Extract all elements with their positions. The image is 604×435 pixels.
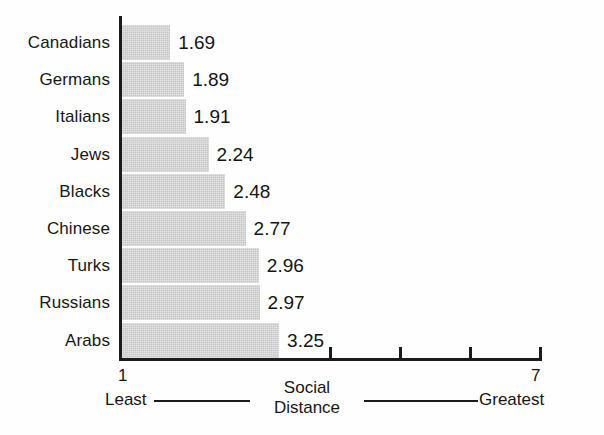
social-distance-bar-chart: Canadians1.69Germans1.89Italians1.91Jews… (0, 0, 604, 435)
bar-category-label: Germans (39, 62, 110, 97)
axis-title-line-1: Social (252, 378, 362, 398)
bar-row: Chinese2.77 (0, 211, 604, 246)
bar (122, 99, 186, 134)
bar-row: Jews2.24 (0, 137, 604, 172)
axis-label-greatest: Greatest (479, 390, 544, 410)
bar-category-label: Chinese (47, 211, 110, 246)
bar-row: Turks2.96 (0, 248, 604, 283)
bar-value-label: 2.77 (254, 211, 291, 246)
bar-value-label: 2.48 (233, 174, 270, 209)
bar (122, 137, 209, 172)
axis-max-value: 7 (531, 366, 540, 386)
bar (122, 211, 246, 246)
axis-caption-row: Least Social Distance Greatest (0, 388, 604, 432)
bar-value-label: 1.91 (194, 99, 231, 134)
bar-category-label: Russians (39, 285, 110, 320)
bar-category-label: Blacks (59, 174, 110, 209)
axis-title-social-distance: Social Distance (252, 378, 362, 418)
bar-category-label: Canadians (28, 25, 110, 60)
bar-value-label: 1.69 (178, 25, 215, 60)
bar (122, 25, 170, 60)
bar-category-label: Arabs (65, 323, 110, 358)
bar-row: Italians1.91 (0, 99, 604, 134)
bar-category-label: Italians (55, 99, 110, 134)
bar (122, 323, 279, 358)
axis-min-value: 1 (118, 366, 127, 386)
bar-category-label: Jews (71, 137, 110, 172)
bar-value-label: 2.24 (217, 137, 254, 172)
bar (122, 248, 259, 283)
bar-row: Russians2.97 (0, 285, 604, 320)
axis-rule-right (364, 400, 478, 402)
bar (122, 285, 260, 320)
plot-area: Canadians1.69Germans1.89Italians1.91Jews… (0, 0, 604, 435)
bar-row: Arabs3.25 (0, 323, 604, 358)
bar-row: Germans1.89 (0, 62, 604, 97)
bar-row: Blacks2.48 (0, 174, 604, 209)
bar (122, 62, 184, 97)
bar-row: Canadians1.69 (0, 25, 604, 60)
bar (122, 174, 225, 209)
bar-value-label: 2.96 (267, 248, 304, 283)
axis-rule-left (154, 400, 250, 402)
bar-category-label: Turks (68, 248, 110, 283)
bar-value-label: 1.89 (192, 62, 229, 97)
axis-label-least: Least (105, 390, 147, 410)
bar-value-label: 3.25 (287, 323, 324, 358)
axis-title-line-2: Distance (252, 398, 362, 418)
bar-value-label: 2.97 (268, 285, 305, 320)
